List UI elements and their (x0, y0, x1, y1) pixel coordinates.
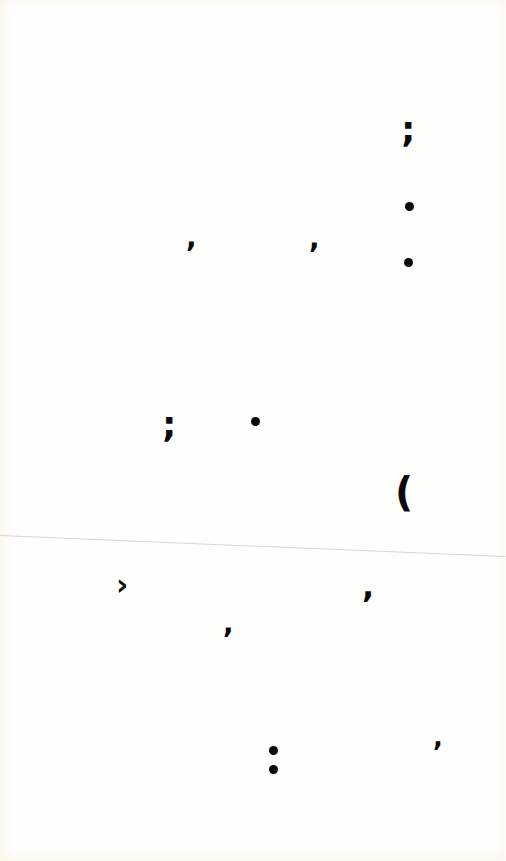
semicolon-mark: ; (401, 112, 415, 148)
period-mark (251, 417, 260, 426)
open-parenthesis-mark: ( (395, 472, 413, 512)
semicolon-mark: ; (162, 407, 176, 443)
comma-mark: , (433, 724, 443, 750)
period-mark (405, 202, 414, 211)
comma-mark: , (223, 610, 234, 638)
comma-mark: , (309, 225, 320, 253)
comma-mark: , (186, 224, 197, 252)
chevron-mark: › (116, 570, 128, 600)
period-mark (404, 258, 413, 267)
colon-lower-dot (269, 765, 278, 774)
fold-line (0, 535, 506, 557)
comma-mark: , (362, 570, 374, 602)
colon-upper-dot (269, 746, 278, 755)
